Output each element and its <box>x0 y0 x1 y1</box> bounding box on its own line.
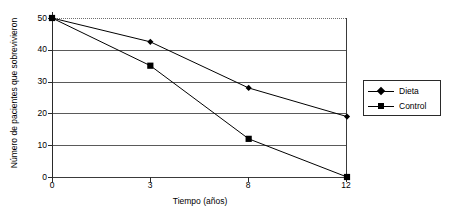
x-tick-label-0: 0 <box>32 181 72 190</box>
gridline-10 <box>52 145 346 146</box>
y-tick-label-10: 10 <box>7 141 47 150</box>
legend: Dieta Control <box>363 80 441 116</box>
diamond-marker-icon <box>368 85 394 97</box>
chart-figure: Número de pacientes que sobrevivieron 50… <box>0 0 451 215</box>
y-tickmark-30 <box>48 82 53 83</box>
gridline-40 <box>52 50 346 51</box>
plot-area <box>52 18 347 177</box>
legend-item-dieta[interactable]: Dieta <box>368 84 438 98</box>
y-tickmark-40 <box>48 50 53 51</box>
legend-item-control[interactable]: Control <box>368 99 438 113</box>
y-tickmark-20 <box>48 113 53 114</box>
legend-label-dieta: Dieta <box>394 86 419 96</box>
y-tickmark-10 <box>48 145 53 146</box>
y-tick-label-30: 30 <box>7 77 47 86</box>
x-axis-title: Tiempo (años) <box>52 196 348 206</box>
y-tickmark-50 <box>48 18 53 19</box>
y-tick-label-50: 50 <box>7 14 47 23</box>
square-marker-icon <box>368 100 394 112</box>
gridline-20 <box>52 113 346 114</box>
legend-label-control: Control <box>394 101 426 111</box>
y-tick-label-20: 20 <box>7 109 47 118</box>
gridline-50 <box>52 18 346 19</box>
gridline-30 <box>52 82 346 83</box>
y-axis-line <box>52 12 53 177</box>
gridline-0-axis <box>52 177 346 178</box>
x-tick-label-12: 12 <box>326 181 366 190</box>
x-tick-label-8: 8 <box>228 181 268 190</box>
x-tick-label-3: 3 <box>130 181 170 190</box>
y-tick-label-40: 40 <box>7 45 47 54</box>
